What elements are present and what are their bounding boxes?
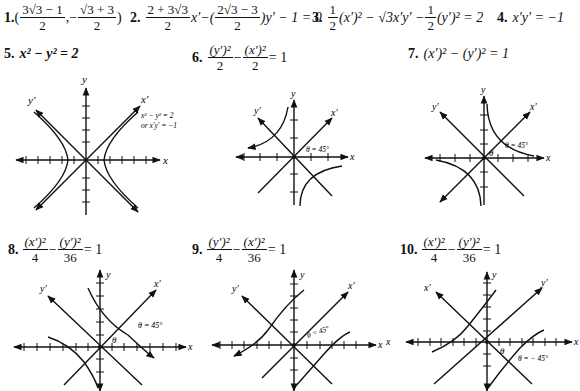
x-axis-label-left: x <box>385 336 391 347</box>
theta-label: θ <box>500 346 505 356</box>
y-axis-label: y <box>491 269 497 280</box>
x-prime-label: x′ <box>423 282 431 293</box>
x-axis-label: x <box>573 336 579 347</box>
graph-problem-10: x x y y′ x′ θ = − 45° θ <box>0 0 580 391</box>
y-prime-label: y′ <box>540 277 548 288</box>
angle-label: θ = − 45° <box>518 354 548 363</box>
